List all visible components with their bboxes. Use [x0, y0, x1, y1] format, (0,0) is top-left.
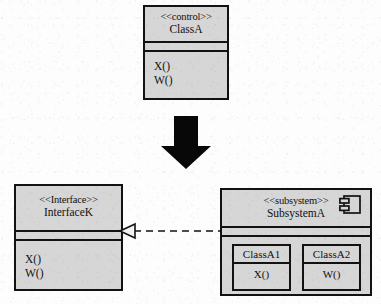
class-box-classa[interactable]: <<control>> ClassA X() W() [143, 5, 229, 100]
subsystema-header: <<subsystem>> SubsystemA [222, 190, 370, 226]
classa1-name: ClassA1 [234, 246, 289, 262]
interfacek-operations-compartment: X() W() [16, 241, 121, 291]
classa-attributes-compartment [145, 43, 227, 50]
interfacek-attributes-compartment [16, 232, 121, 239]
interfacek-operation: X() [25, 252, 121, 266]
subsystema-attributes-compartment [222, 228, 370, 235]
interfacek-stereotype: <<Interface>> [18, 194, 119, 206]
classa-operation: X() [154, 59, 227, 73]
down-arrow-icon [160, 116, 212, 170]
classa-name: ClassA [147, 23, 225, 37]
subsystema-contents-compartment: ClassA1 X() ClassA2 W() [222, 237, 370, 298]
nested-class-classa1[interactable]: ClassA1 X() [232, 244, 291, 291]
classa2-operation: W() [304, 264, 359, 280]
classa-stereotype: <<control>> [147, 11, 225, 23]
classa-operation: W() [154, 73, 227, 87]
classa2-name: ClassA2 [304, 246, 359, 262]
interfacek-header: <<Interface>> InterfaceK [16, 186, 121, 230]
subsystem-box-subsystema[interactable]: <<subsystem>> SubsystemA ClassA1 X() Cla… [220, 188, 372, 296]
classa1-operation: X() [234, 264, 289, 280]
interface-box-interfacek[interactable]: <<Interface>> InterfaceK X() W() [14, 184, 123, 291]
interfacek-name: InterfaceK [18, 206, 119, 220]
nested-class-classa2[interactable]: ClassA2 W() [302, 244, 361, 291]
realization-arrow-icon [118, 222, 226, 240]
classa-operations-compartment: X() W() [145, 52, 227, 100]
interfacek-operation: W() [25, 266, 121, 280]
classa-header: <<control>> ClassA [145, 7, 227, 41]
component-icon [339, 195, 361, 214]
uml-diagram-canvas: <<control>> ClassA X() W() <<Interface>>… [0, 0, 381, 304]
